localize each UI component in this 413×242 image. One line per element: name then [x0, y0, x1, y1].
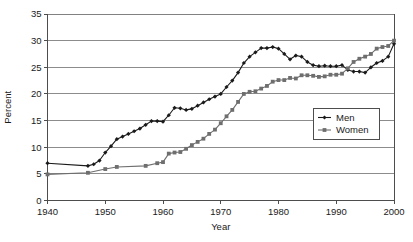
marker-square [46, 172, 50, 176]
marker-square [242, 92, 246, 96]
marker-diamond [120, 134, 124, 138]
marker-square [392, 39, 396, 43]
marker-square [340, 72, 344, 76]
marker-square [196, 140, 200, 144]
y-tick-label: 15 [31, 115, 42, 126]
marker-diamond [190, 107, 194, 111]
marker-square [248, 90, 252, 94]
x-tick-label: 1970 [210, 206, 231, 217]
marker-square [386, 44, 390, 48]
x-tick-label: 1990 [326, 206, 347, 217]
marker-square [161, 160, 165, 164]
marker-square [103, 167, 107, 171]
x-tick-label: 1960 [152, 206, 173, 217]
marker-square [115, 165, 119, 169]
x-tick-label: 1950 [95, 206, 116, 217]
marker-square [190, 143, 194, 147]
marker-square [144, 164, 148, 168]
marker-square [236, 100, 240, 104]
marker-square [311, 74, 315, 78]
marker-square [381, 45, 385, 49]
marker-square [363, 55, 367, 59]
y-tick-label: 20 [31, 88, 42, 99]
marker-square [219, 121, 223, 125]
marker-square [207, 132, 211, 136]
marker-square [259, 87, 263, 91]
marker-square [323, 74, 327, 78]
marker-square [173, 151, 177, 155]
marker-square [282, 78, 286, 82]
line-chart: 0510152025303519401950196019701980199020… [0, 0, 413, 242]
marker-diamond [126, 132, 130, 136]
y-tick-label: 0 [36, 195, 41, 206]
marker-square [334, 73, 338, 77]
marker-square [375, 47, 379, 51]
marker-diamond [155, 119, 159, 123]
marker-square [305, 73, 309, 77]
y-tick-label: 35 [31, 8, 42, 19]
marker-diamond [86, 164, 90, 168]
marker-square [230, 108, 234, 112]
y-tick-label: 30 [31, 35, 42, 46]
marker-square [369, 52, 373, 56]
marker-square [265, 84, 269, 88]
marker-diamond [213, 94, 217, 98]
legend-label-women: Women [336, 124, 369, 135]
y-axis-title: Percent [2, 91, 13, 124]
marker-square [357, 57, 361, 61]
legend-marker-square [323, 128, 327, 132]
marker-square [329, 73, 333, 77]
chart-container: 0510152025303519401950196019701980199020… [0, 0, 413, 242]
marker-square [300, 73, 304, 77]
marker-square [346, 66, 350, 70]
y-tick-label: 5 [36, 168, 41, 179]
legend-label-men: Men [336, 112, 354, 123]
x-tick-label: 1940 [37, 206, 58, 217]
marker-square [294, 77, 298, 81]
marker-square [202, 137, 206, 141]
marker-square [277, 78, 281, 82]
marker-square [155, 161, 159, 165]
y-tick-label: 25 [31, 62, 42, 73]
marker-diamond [196, 104, 200, 108]
marker-square [352, 60, 356, 64]
marker-diamond [357, 69, 361, 73]
marker-square [271, 80, 275, 84]
marker-diamond [207, 97, 211, 101]
marker-diamond [271, 45, 275, 49]
marker-square [254, 89, 258, 93]
marker-diamond [132, 129, 136, 133]
marker-square [225, 114, 229, 118]
marker-diamond [201, 100, 205, 104]
marker-square [167, 152, 171, 156]
marker-square [317, 75, 321, 79]
x-axis-title: Year [211, 221, 230, 232]
series-men [45, 42, 396, 168]
marker-diamond [311, 63, 315, 67]
marker-square [178, 150, 182, 154]
marker-square [288, 76, 292, 80]
marker-square [184, 147, 188, 151]
marker-diamond [45, 161, 49, 165]
marker-diamond [265, 46, 269, 50]
x-tick-label: 2000 [383, 206, 404, 217]
marker-square [213, 128, 217, 132]
y-tick-label: 10 [31, 142, 42, 153]
marker-diamond [351, 69, 355, 73]
x-tick-label: 1980 [268, 206, 289, 217]
marker-diamond [184, 108, 188, 112]
marker-diamond [178, 106, 182, 110]
marker-square [86, 171, 90, 175]
